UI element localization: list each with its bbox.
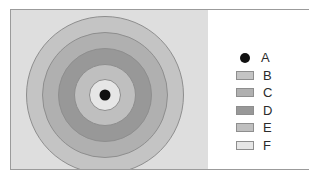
legend-item-label: C: [263, 86, 272, 99]
legend-swatch-icon: [236, 123, 254, 132]
legend-item-label: A: [261, 51, 270, 64]
legend-item-b[interactable]: B: [236, 69, 272, 82]
legend-swatch-icon: [236, 88, 254, 97]
center-point-feature: [100, 90, 111, 101]
legend-item-a[interactable]: A: [236, 51, 270, 64]
legend-item-d[interactable]: D: [236, 104, 272, 117]
legend-swatch-icon: [236, 71, 254, 80]
legend-swatch-icon: [236, 141, 254, 150]
legend-item-f[interactable]: F: [236, 139, 271, 152]
legend-item-label: D: [263, 104, 272, 117]
legend-item-label: F: [263, 139, 271, 152]
figure-container: ABCDEF: [0, 0, 321, 187]
legend-item-label: E: [263, 121, 272, 134]
legend-swatch-icon: [236, 106, 254, 115]
legend-item-e[interactable]: E: [236, 121, 272, 134]
legend-list: ABCDEF: [208, 10, 309, 169]
legend-panel: ABCDEF: [208, 10, 309, 169]
map-panel: [11, 10, 208, 169]
legend-item-label: B: [263, 69, 272, 82]
legend-point-symbol-icon: [240, 53, 250, 63]
legend-item-c[interactable]: C: [236, 86, 272, 99]
